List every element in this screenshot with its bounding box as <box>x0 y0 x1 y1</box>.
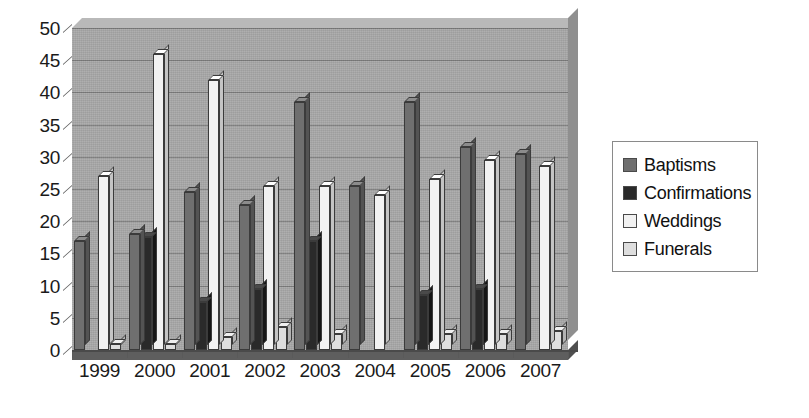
chart-legend: BaptismsConfirmationsWeddingsFunerals <box>612 141 758 272</box>
y-tick-label-50: 50 <box>39 19 60 38</box>
y-tick-label-5: 5 <box>50 308 60 327</box>
bar-face <box>349 186 360 350</box>
bar-side <box>219 70 224 345</box>
y-tick-label-25: 25 <box>39 180 60 199</box>
y-tick-50 <box>63 24 72 33</box>
bar-side <box>262 279 267 345</box>
bar-baptisms-2001 <box>184 192 195 350</box>
y-tick-label-45: 45 <box>39 51 60 70</box>
bar-baptisms-2000 <box>129 234 140 350</box>
y-tick-35 <box>63 121 72 130</box>
bar-side <box>140 224 145 345</box>
bar-side <box>483 279 488 345</box>
bar-face <box>184 192 195 350</box>
legend-swatch-confirmations <box>623 186 637 200</box>
bar-side <box>85 231 90 345</box>
x-tick-2001 <box>182 352 183 358</box>
bar-face <box>515 154 526 350</box>
y-tick-label-0: 0 <box>50 341 60 360</box>
x-tick-2000 <box>127 352 128 358</box>
bar-face <box>374 195 385 350</box>
y-axis: 05101520253035404550 <box>64 24 72 354</box>
y-tick-15 <box>63 249 72 258</box>
plot-depth-top <box>72 18 578 28</box>
y-tick-label-40: 40 <box>39 83 60 102</box>
bar-weddings-1999 <box>98 176 109 350</box>
bar-baptisms-2007 <box>515 154 526 350</box>
legend-label: Weddings <box>644 212 721 230</box>
plot-area <box>72 28 568 350</box>
x-tick-label-2000: 2000 <box>134 361 175 380</box>
x-tick-1999 <box>72 352 73 358</box>
plot-depth-right <box>568 8 578 340</box>
x-tick-label-2002: 2002 <box>244 361 285 380</box>
bar-face <box>539 166 550 350</box>
bar-weddings-2007 <box>539 166 550 350</box>
x-tick-2005 <box>403 352 404 358</box>
legend-item-confirmations[interactable]: Confirmations <box>623 179 757 207</box>
bar-side <box>109 166 114 345</box>
gridline-40 <box>72 92 568 93</box>
x-tick-label-2003: 2003 <box>299 361 340 380</box>
x-tick-end <box>568 352 569 358</box>
x-tick-label-2001: 2001 <box>189 361 230 380</box>
bar-face <box>98 176 109 350</box>
legend-label: Confirmations <box>644 184 751 202</box>
x-tick-2007 <box>513 352 514 358</box>
y-tick-45 <box>63 56 72 65</box>
y-tick-30 <box>63 153 72 162</box>
y-tick-20 <box>63 217 72 226</box>
bar-weddings-2004 <box>374 195 385 350</box>
bar-baptisms-2003 <box>294 102 305 350</box>
y-tick-label-30: 30 <box>39 147 60 166</box>
bar-side <box>330 176 335 345</box>
bar-side <box>550 156 555 345</box>
legend-item-funerals[interactable]: Funerals <box>623 235 757 263</box>
y-tick-0 <box>63 346 72 355</box>
bar-face <box>110 344 121 350</box>
x-tick-2003 <box>292 352 293 358</box>
bar-side <box>305 92 310 345</box>
x-tick-2006 <box>458 352 459 358</box>
legend-label: Funerals <box>644 240 712 258</box>
bar-face <box>129 234 140 350</box>
y-tick-label-15: 15 <box>39 244 60 263</box>
x-tick-2002 <box>237 352 238 358</box>
bar-side <box>317 231 322 345</box>
legend-item-baptisms[interactable]: Baptisms <box>623 151 757 179</box>
gridline-50 <box>72 28 568 29</box>
chart-root: 05101520253035404550 1999200020012002200… <box>0 0 809 418</box>
bar-baptisms-1999 <box>74 241 85 350</box>
bar-side <box>471 137 476 345</box>
y-tick-label-20: 20 <box>39 212 60 231</box>
bar-face <box>239 205 250 350</box>
y-tick-40 <box>63 88 72 97</box>
y-tick-10 <box>63 282 72 291</box>
bar-side <box>415 92 420 345</box>
bar-funerals-2000 <box>165 344 176 350</box>
legend-swatch-baptisms <box>623 158 637 172</box>
x-tick-label-2007: 2007 <box>520 361 561 380</box>
legend-item-weddings[interactable]: Weddings <box>623 207 757 235</box>
bar-side <box>495 150 500 345</box>
legend-swatch-funerals <box>623 242 637 256</box>
bar-side <box>152 227 157 345</box>
y-tick-label-10: 10 <box>39 276 60 295</box>
bar-face <box>404 102 415 350</box>
bar-side <box>526 144 531 345</box>
x-tick-label-2004: 2004 <box>355 361 396 380</box>
y-tick-label-35: 35 <box>39 115 60 134</box>
bar-baptisms-2006 <box>460 147 471 350</box>
y-tick-5 <box>63 314 72 323</box>
bar-face <box>165 344 176 350</box>
bar-face <box>294 102 305 350</box>
x-axis-line <box>72 350 578 352</box>
bar-side <box>440 169 445 345</box>
bar-side <box>385 185 390 345</box>
x-tick-label-2005: 2005 <box>410 361 451 380</box>
y-tick-25 <box>63 185 72 194</box>
bar-side <box>274 176 279 345</box>
bar-side <box>360 176 365 345</box>
gridline-35 <box>72 125 568 126</box>
x-tick-label-1999: 1999 <box>79 361 120 380</box>
